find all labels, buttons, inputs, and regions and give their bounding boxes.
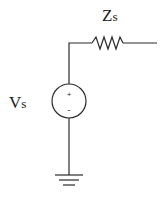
circuit-diagram: + -	[0, 0, 168, 200]
resistor-icon	[92, 37, 123, 49]
ground-icon	[55, 175, 83, 185]
minus-sign: -	[68, 105, 71, 115]
wire-top	[69, 43, 92, 84]
plus-sign: +	[67, 90, 72, 99]
